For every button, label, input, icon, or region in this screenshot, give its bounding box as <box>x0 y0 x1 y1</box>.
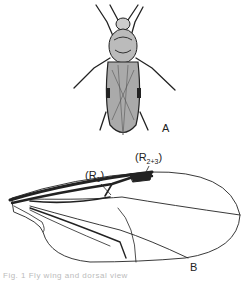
figure-caption: Fig. 1 Fly wing and dorsal view <box>3 271 247 281</box>
vein-label-leaders <box>0 0 247 282</box>
